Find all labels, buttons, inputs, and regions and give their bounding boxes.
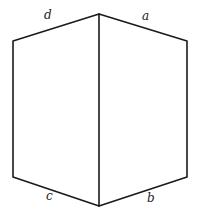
- edge-label-d: d: [44, 8, 52, 22]
- hexagon-outline: [13, 14, 187, 206]
- edge-label-b: b: [147, 191, 155, 205]
- edge-label-c: c: [46, 189, 53, 203]
- edge-label-a: a: [142, 9, 149, 23]
- diagram-canvas: d a c b: [0, 0, 198, 214]
- cube-diagram: d a c b: [0, 0, 198, 214]
